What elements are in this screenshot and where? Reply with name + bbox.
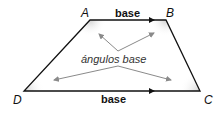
bottom-base-label: base xyxy=(101,93,126,105)
trapezoid-svg: A B C D base base ángulos base xyxy=(0,0,221,113)
pointer-arrow-a-icon xyxy=(99,34,118,51)
vertex-label-a: A xyxy=(80,6,89,20)
vertex-label-d: D xyxy=(13,93,22,107)
pointer-arrow-b-icon xyxy=(118,33,154,51)
base-angles-label: ángulos base xyxy=(81,53,146,65)
pointer-arrow-c-icon xyxy=(118,66,171,80)
trapezoid-diagram: A B C D base base ángulos base xyxy=(0,0,221,113)
pointer-arrow-d-icon xyxy=(54,66,118,80)
vertex-label-b: B xyxy=(166,6,174,20)
vertex-label-c: C xyxy=(204,93,213,107)
top-base-label: base xyxy=(115,7,140,19)
bottom-base-arrow-icon xyxy=(149,88,155,94)
